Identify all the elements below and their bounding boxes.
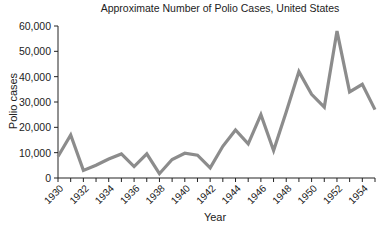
x-tick-label: 1944 bbox=[219, 182, 243, 206]
x-tick-label: 1950 bbox=[296, 182, 320, 206]
y-tick-label: 10,000 bbox=[19, 147, 51, 159]
y-tick-label: 60,000 bbox=[19, 20, 51, 32]
plot-area bbox=[58, 31, 375, 174]
x-tick-label: 1936 bbox=[118, 182, 142, 206]
axes: 010,00020,00030,00040,00050,00060,000193… bbox=[19, 20, 375, 206]
x-tick-label: 1938 bbox=[143, 182, 167, 206]
x-tick-label: 1948 bbox=[270, 182, 294, 206]
data-line bbox=[58, 31, 375, 174]
x-tick-label: 1934 bbox=[93, 182, 117, 206]
y-tick-label: 40,000 bbox=[19, 71, 51, 83]
x-tick-label: 1954 bbox=[346, 182, 370, 206]
x-tick-label: 1946 bbox=[245, 182, 269, 206]
y-tick-label: 50,000 bbox=[19, 45, 51, 57]
line-chart: 010,00020,00030,00040,00050,00060,000193… bbox=[0, 0, 379, 227]
y-tick-label: 0 bbox=[45, 172, 51, 184]
x-tick-label: 1942 bbox=[194, 182, 218, 206]
y-tick-label: 30,000 bbox=[19, 96, 51, 108]
x-tick-label: 1932 bbox=[67, 182, 91, 206]
y-tick-label: 20,000 bbox=[19, 121, 51, 133]
x-tick-label: 1952 bbox=[321, 182, 345, 206]
x-tick-label: 1940 bbox=[169, 182, 193, 206]
x-tick-label: 1930 bbox=[42, 182, 66, 206]
